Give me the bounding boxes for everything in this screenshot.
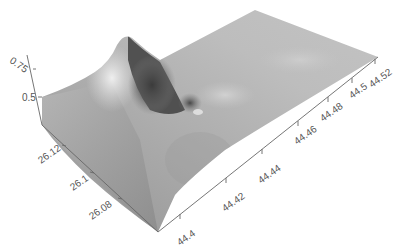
y-tick-label: 26.08 <box>87 198 114 222</box>
x-tick-label: 44.46 <box>292 123 319 147</box>
x-tick-label: 44.44 <box>256 162 283 186</box>
y-tick-label: 26.1 <box>68 172 91 192</box>
x-tick-label: 44.42 <box>220 190 247 214</box>
x-tick-label: 44.52 <box>367 66 394 90</box>
z-tick-label: 0.75 <box>8 55 31 75</box>
x-tick-label: 44.48 <box>318 100 345 124</box>
z-tick-label: 0.5 <box>22 92 36 103</box>
surface-plot: 0.75 0.5 26.12 26.1 26.08 44.4 44.42 44.… <box>0 0 402 250</box>
x-tick-label: 44.5 <box>347 80 370 100</box>
x-tick-label: 44.4 <box>175 227 198 247</box>
surface <box>0 0 402 250</box>
